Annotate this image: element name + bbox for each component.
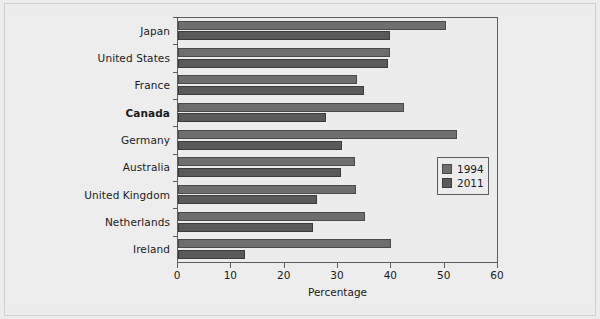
bar-2011 <box>178 168 341 177</box>
bar-row: Japan <box>177 17 498 44</box>
x-axis-title: Percentage <box>177 286 498 298</box>
category-label: United Kingdom <box>84 189 170 201</box>
bar-2011 <box>178 223 313 232</box>
y-axis-tick <box>173 99 177 100</box>
y-axis-tick <box>173 181 177 182</box>
legend-item-2011: 2011 <box>442 176 483 190</box>
bar-row: United States <box>177 44 498 71</box>
legend-swatch-2011 <box>442 178 452 188</box>
y-axis-tick <box>173 154 177 155</box>
y-axis-tick <box>173 17 177 18</box>
y-axis-tick <box>173 126 177 127</box>
category-label: Germany <box>121 134 170 146</box>
bar-1994 <box>178 239 391 248</box>
bar-row: France <box>177 72 498 99</box>
y-axis-tick <box>173 72 177 73</box>
category-label: Ireland <box>133 243 170 255</box>
x-axis-tick <box>177 263 178 268</box>
x-axis-tick-label: 60 <box>490 269 503 281</box>
x-axis-tick <box>284 263 285 268</box>
y-axis-tick <box>173 236 177 237</box>
bar-2011 <box>178 141 342 150</box>
x-axis-tick <box>444 263 445 268</box>
bar-2011 <box>178 31 390 40</box>
x-axis-tick-label: 50 <box>437 269 450 281</box>
x-axis-tick-label: 20 <box>277 269 290 281</box>
bar-1994 <box>178 75 357 84</box>
bar-row: Netherlands <box>177 208 498 235</box>
bar-2011 <box>178 195 317 204</box>
bar-2011 <box>178 113 326 122</box>
legend-label-2011: 2011 <box>457 178 484 189</box>
bar-1994 <box>178 48 390 57</box>
legend-item-1994: 1994 <box>442 162 483 176</box>
x-axis-tick-label: 40 <box>384 269 397 281</box>
x-axis-tick <box>390 263 391 268</box>
bar-2011 <box>178 59 388 68</box>
category-label: United States <box>98 52 170 64</box>
bar-1994 <box>178 103 404 112</box>
bar-1994 <box>178 130 457 139</box>
bar-1994 <box>178 157 355 166</box>
bar-1994 <box>178 185 356 194</box>
bar-row: Germany <box>177 126 498 153</box>
bar-2011 <box>178 250 245 259</box>
x-axis-tick-label: 30 <box>330 269 343 281</box>
bar-2011 <box>178 86 364 95</box>
bar-chart: JapanUnited StatesFranceCanadaGermanyAus… <box>0 0 600 319</box>
category-label: Netherlands <box>105 216 170 228</box>
category-label: France <box>134 79 170 91</box>
y-axis-tick <box>173 44 177 45</box>
x-axis-tick-label: 0 <box>174 269 181 281</box>
x-axis-tick-label: 10 <box>224 269 237 281</box>
y-axis-tick <box>173 208 177 209</box>
bar-1994 <box>178 21 446 30</box>
legend-swatch-1994 <box>442 164 452 174</box>
x-axis-tick <box>497 263 498 268</box>
bar-row: Ireland <box>177 236 498 263</box>
bar-row: Canada <box>177 99 498 126</box>
category-label: Canada <box>125 107 170 119</box>
bar-1994 <box>178 212 365 221</box>
category-label: Japan <box>140 25 170 37</box>
chart-page: JapanUnited StatesFranceCanadaGermanyAus… <box>0 0 600 319</box>
legend-label-1994: 1994 <box>457 164 484 175</box>
category-label: Australia <box>123 161 170 173</box>
x-axis-tick <box>230 263 231 268</box>
chart-legend: 1994 2011 <box>437 157 489 195</box>
x-axis-tick <box>337 263 338 268</box>
